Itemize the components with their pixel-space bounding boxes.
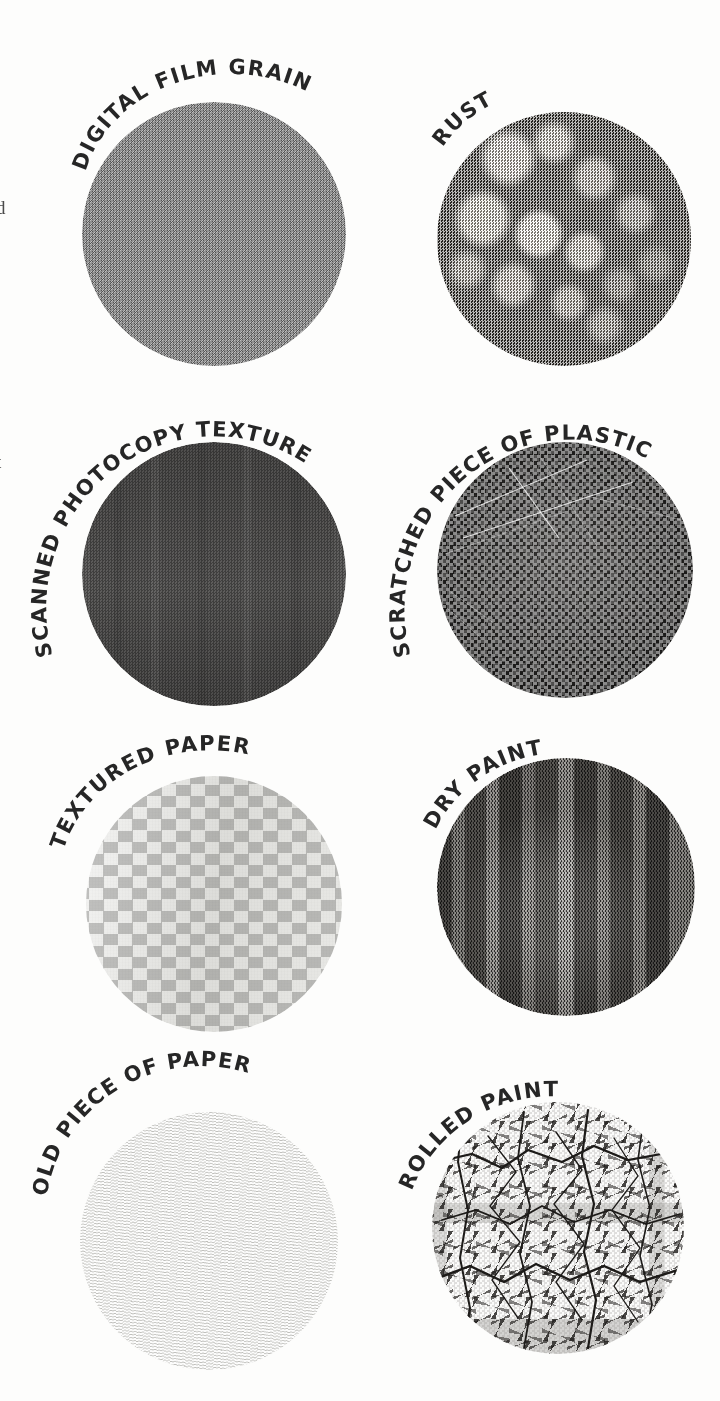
texture-disc-digital-film-grain xyxy=(82,102,346,366)
texture-disc-scanned-photocopy-texture xyxy=(82,442,346,706)
texture-noise-overlay xyxy=(82,102,346,366)
texture-grain-overlay xyxy=(82,442,346,706)
texture-disc-rolled-paint xyxy=(432,1102,684,1354)
texture-disc-rust xyxy=(437,112,691,366)
texture-disc-old-piece-of-paper xyxy=(80,1112,338,1370)
margin-text-fragment-2: t xyxy=(0,452,1,471)
margin-text-fragment-1: d xyxy=(0,198,6,217)
texture-disc-dry-paint xyxy=(437,758,695,1016)
texture-disc-textured-paper xyxy=(86,776,342,1032)
texture-speckle-overlay xyxy=(437,112,691,366)
crack-lines xyxy=(432,1102,684,1354)
texture-fiber-overlay xyxy=(80,1112,338,1370)
texture-grain-overlay xyxy=(437,758,695,1016)
scratch-lines xyxy=(437,442,693,698)
texture-disc-scratched-piece-of-plastic xyxy=(437,442,693,698)
texture-speckle-overlay xyxy=(86,776,342,1032)
